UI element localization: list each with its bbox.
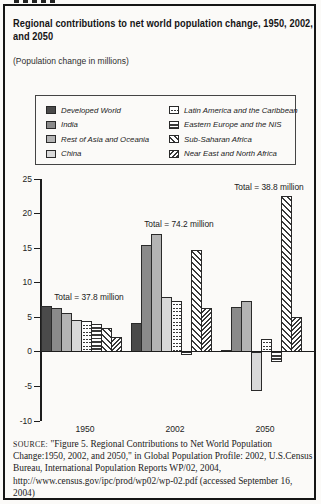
legend-swatch-sub-saharan: [169, 135, 179, 143]
legend-item: Eastern Europe and the NIS: [169, 118, 289, 133]
legend-item-label: China: [61, 149, 81, 158]
legend-item-label: Rest of Asia and Oceania: [61, 135, 149, 144]
y-axis-tick: [34, 179, 40, 180]
y-axis-tick: [34, 213, 40, 214]
bar-near-east-2050: [291, 317, 302, 352]
legend-item-label: Near East and North Africa: [184, 149, 277, 158]
group-total-label: Total = 37.8 million: [41, 292, 137, 302]
legend-swatch-india: [46, 121, 56, 129]
legend-item-label: Sub-Saharan Africa: [184, 135, 252, 144]
legend-swatch-rest-asia: [46, 135, 56, 143]
y-tick-label: 10: [8, 277, 32, 287]
y-tick-label: 20: [8, 208, 32, 218]
y-tick-label: -5: [8, 381, 32, 391]
group-total-label: Total = 74.2 million: [131, 219, 227, 229]
legend-item: Near East and North Africa: [169, 147, 289, 162]
y-axis-tick: [34, 386, 40, 387]
legend-item-label: Eastern Europe and the NIS: [184, 120, 282, 129]
legend-swatch-china: [46, 150, 56, 158]
bar-china-2050: [251, 352, 262, 391]
bar-rest-asia-2050: [241, 301, 252, 351]
legend-column-right: Latin America and the CaribbeanEastern E…: [169, 103, 289, 164]
source-text: "Figure 5. Regional Contributions to Net…: [13, 439, 312, 498]
y-axis-tick: [34, 248, 40, 249]
legend-item: China: [46, 147, 169, 162]
bar-eastern-europe-2050: [271, 352, 282, 362]
y-axis-tick: [34, 282, 40, 283]
legend-swatch-latin-america: [169, 106, 179, 114]
legend-swatch-developed: [46, 106, 56, 114]
y-axis-tick: [34, 317, 40, 318]
bar-latin-america-2050: [261, 339, 272, 351]
legend-item: India: [46, 118, 169, 133]
bar-latin-america-2002: [171, 301, 182, 351]
y-tick-label: 0: [8, 346, 32, 356]
y-tick-label: 25: [8, 174, 32, 184]
source-note: SOURCE: "Figure 5. Regional Contribution…: [13, 438, 313, 499]
x-axis-label-2050: 2050: [243, 424, 287, 434]
legend-swatch-eastern-europe: [169, 121, 179, 129]
legend-column-left: Developed WorldIndiaRest of Asia and Oce…: [46, 103, 169, 164]
bar-chart: 2520151050-5-10Total = 37.8 millionTotal…: [0, 170, 321, 440]
legend-item-label: Latin America and the Caribbean: [184, 106, 298, 115]
legend-item-label: India: [61, 120, 78, 129]
source-label: SOURCE:: [13, 440, 48, 449]
figure-page: Regional contributions to net world popu…: [0, 0, 321, 504]
legend-item: Developed World: [46, 103, 169, 118]
cropped-text-artifact: [14, 0, 58, 3]
legend-item: Rest of Asia and Oceania: [46, 132, 169, 147]
legend-item: Latin America and the Caribbean: [169, 103, 289, 118]
y-tick-label: -10: [8, 416, 32, 426]
y-tick-label: 15: [8, 243, 32, 253]
legend-item-label: Developed World: [61, 106, 121, 115]
bar-near-east-1950: [111, 337, 122, 352]
legend: Developed WorldIndiaRest of Asia and Oce…: [35, 95, 296, 165]
y-axis-tick: [34, 421, 40, 422]
legend-item: Sub-Saharan Africa: [169, 132, 289, 147]
legend-swatch-near-east: [169, 150, 179, 158]
x-axis-label-1950: 1950: [63, 424, 107, 434]
bar-near-east-2002: [201, 308, 212, 352]
y-tick-label: 5: [8, 312, 32, 322]
chart-subtitle: (Population change in millions): [13, 56, 129, 66]
zero-baseline: [40, 351, 315, 352]
group-total-label: Total = 38.8 million: [221, 182, 317, 192]
x-axis-label-2002: 2002: [153, 424, 197, 434]
page-title: Regional contributions to net world popu…: [13, 17, 317, 43]
